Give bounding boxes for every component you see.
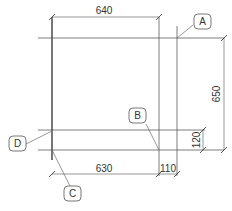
leader-c	[52, 150, 70, 186]
callout-c-label: C	[69, 188, 76, 199]
technical-drawing: 640 630 110 650 120 A B C D	[0, 0, 232, 211]
dim-640-label: 640	[96, 5, 113, 16]
callout-b-label: B	[134, 110, 141, 121]
leader-b	[146, 124, 159, 150]
callout-d-label: D	[14, 138, 21, 149]
dim-110-label: 110	[160, 163, 176, 174]
dim-120-label: 120	[191, 131, 202, 148]
leader-a	[177, 25, 193, 38]
leader-d	[26, 131, 52, 144]
dim-650-label: 650	[211, 85, 222, 102]
dim-630-label: 630	[96, 163, 113, 174]
callout-a-label: A	[199, 16, 206, 27]
